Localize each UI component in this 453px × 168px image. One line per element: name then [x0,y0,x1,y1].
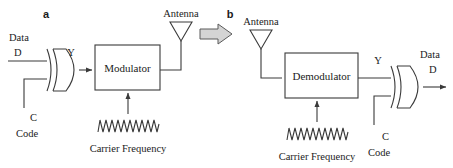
label-data-out-d: D [429,64,437,75]
label-antenna: Antenna [243,16,279,27]
label-code: Code [16,128,39,139]
label-code: Code [368,147,391,158]
label-gate-output-y: Y [67,47,75,58]
label-data-out: Data [420,49,440,60]
figure-canvas: a Data D Y C Code Modulator Carrier Freq… [0,0,453,168]
label-carrier-frequency: Carrier Frequency [279,151,356,162]
label-code-c: C [30,112,37,123]
diagram-text-layer: a Data D Y C Code Modulator Carrier Freq… [0,0,453,168]
label-code-c: C [382,131,389,142]
label-demodulator: Demodulator [292,70,350,82]
label-modulator: Modulator [104,62,151,74]
label-gate-input-y: Y [374,55,382,66]
label-antenna: Antenna [163,8,199,19]
label-data-in-d: D [14,47,22,58]
panel-b-letter: b [227,8,234,20]
label-data-in: Data [9,32,29,43]
label-carrier-frequency: Carrier Frequency [90,143,167,154]
panel-a-letter: a [43,8,50,20]
